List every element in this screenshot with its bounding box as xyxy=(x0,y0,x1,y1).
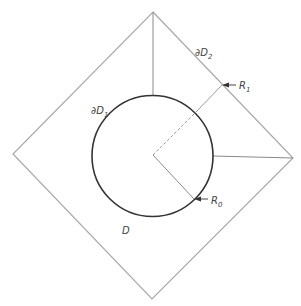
diagram-canvas: ∂D2 ∂D1 R1 R0 D xyxy=(0,0,301,306)
r1-radius-dashed xyxy=(153,113,195,155)
r0-radius xyxy=(153,155,194,199)
label-r1: R1 xyxy=(239,80,250,94)
label-domain: D xyxy=(122,225,130,236)
label-inner-boundary: ∂D1 xyxy=(91,105,108,119)
label-r0: R0 xyxy=(211,195,223,209)
r1-radius-solid xyxy=(195,85,222,113)
inner-boundary-circle xyxy=(92,96,213,217)
right-connector-line xyxy=(213,156,293,158)
